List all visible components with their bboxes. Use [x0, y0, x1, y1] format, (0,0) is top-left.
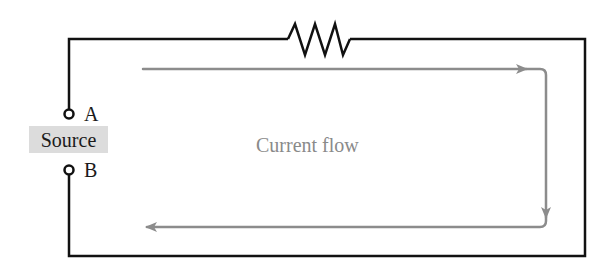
terminal-b-label: B	[84, 160, 97, 180]
wire-top-left	[69, 39, 288, 109]
source-label: Source	[41, 130, 97, 150]
resistor-icon	[288, 24, 350, 55]
terminal-a-label: A	[84, 104, 98, 124]
current-arrow-bottom	[147, 217, 546, 227]
current-arrow-right	[526, 69, 546, 217]
terminal-a-icon	[65, 110, 74, 119]
terminal-b-icon	[65, 166, 74, 175]
current-flow-label: Current flow	[256, 135, 359, 155]
source-label-box: Source	[29, 126, 108, 153]
